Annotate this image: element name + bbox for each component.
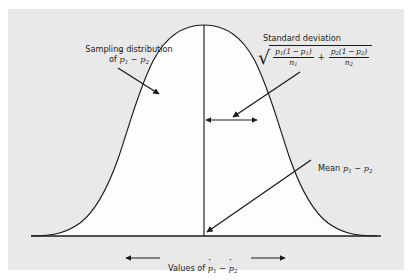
hat-accent-icon: ̂ [229,259,236,267]
p-hat-2-axis: ̂p2 [229,264,238,274]
hat-accent-icon: ̂ [208,259,215,267]
figure-page: Sampling distribution of ̂p1 − ̂p2 Stand… [0,0,412,280]
sampling-distribution-callout: Sampling distribution of ̂p1 − ̂p2 [69,45,189,65]
p-hat-2: ̂p2 [140,55,149,65]
values-label-prefix: Values of [168,263,208,273]
fraction-2-denominator: n2 [345,58,353,68]
plus-sign: + [318,52,325,62]
standard-deviation-formula: √ p1(1 − p1) n1 + p2(1 − p2) n2 [258,45,372,68]
hat-accent-icon: ̂ [140,50,147,58]
fraction-term-2: p2(1 − p2) n2 [329,47,370,68]
fraction-2-numerator: p2(1 − p2) [329,47,370,58]
fraction-1-numerator: p1(1 − p1) [273,47,314,58]
radical-icon: √ [258,48,270,67]
p-hat-1-axis: ̂p1 [208,264,217,274]
minus-glyph-1: − [131,54,138,64]
radicand: p1(1 − p1) n1 + p2(1 − p2) n2 [269,45,372,68]
p-hat-1: ̂p1 [119,55,128,65]
standard-deviation-title: Standard deviation [263,34,341,43]
figure-panel: Sampling distribution of ̂p1 − ̂p2 Stand… [8,9,404,270]
mean-label-prefix: Mean [318,163,343,173]
sampling-distribution-line1: Sampling distribution [85,44,173,54]
p-2: p2 [364,163,373,173]
fraction-1-denominator: n1 [289,58,297,68]
sampling-distribution-line2: of ̂p1 − ̂p2 [69,55,189,65]
hat-accent-icon: ̂ [119,50,126,58]
mean-callout: Mean p1 − p2 [318,164,373,174]
fraction-term-1: p1(1 − p1) n1 [273,47,314,68]
values-axis-label: Values of ̂p1 − ̂p2 [168,264,238,274]
p-1: p1 [343,163,352,173]
